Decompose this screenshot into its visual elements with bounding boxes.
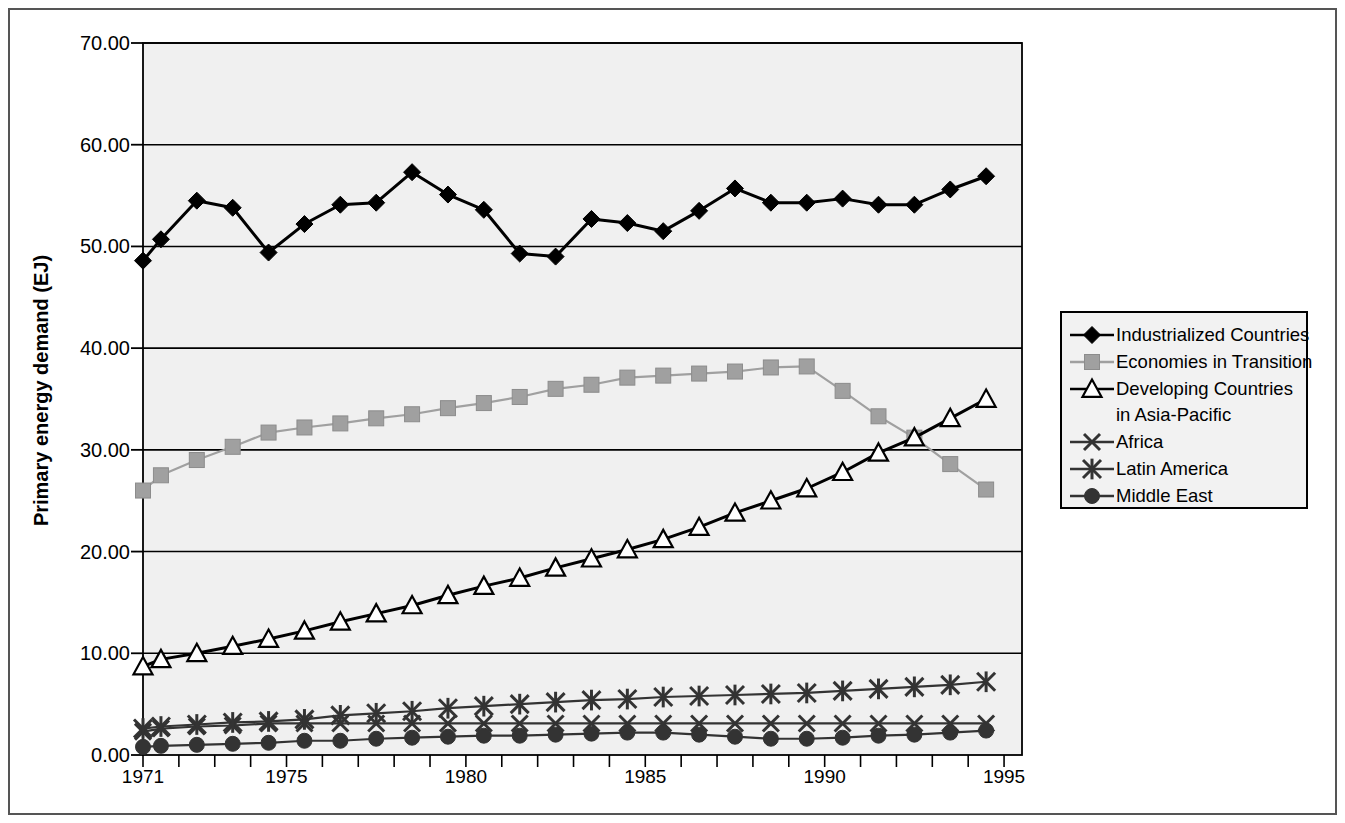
data-point-square — [225, 439, 240, 454]
diamond-marker-icon — [1068, 323, 1116, 347]
x-marker-icon — [1068, 430, 1116, 454]
data-point-circle — [979, 723, 994, 738]
data-point-circle — [763, 731, 778, 746]
data-point-circle — [261, 735, 276, 750]
data-point-circle — [907, 727, 922, 742]
data-point-circle — [835, 730, 850, 745]
data-point-circle — [1085, 488, 1100, 503]
star-marker-icon — [1068, 457, 1116, 481]
data-point-circle — [153, 738, 168, 753]
data-point-circle — [189, 737, 204, 752]
data-point-circle — [440, 729, 455, 744]
legend-label: Economies in Transition — [1116, 352, 1312, 371]
data-point-square — [548, 381, 563, 396]
data-point-circle — [620, 725, 635, 740]
data-point-circle — [476, 728, 491, 743]
legend-item-3[interactable]: Africa — [1062, 428, 1306, 455]
data-point-circle — [405, 730, 420, 745]
data-point-circle — [943, 725, 958, 740]
data-point-circle — [333, 733, 348, 748]
data-point-circle — [225, 736, 240, 751]
data-point-square — [692, 366, 707, 381]
legend-item-5[interactable]: Middle East — [1062, 482, 1306, 509]
data-point-square — [656, 368, 671, 383]
data-point-circle — [584, 726, 599, 741]
legend-item-2-line2: in Asia-Pacific — [1062, 402, 1306, 428]
legend-item-2[interactable]: Developing Countries — [1062, 375, 1306, 402]
plot-background — [143, 43, 1022, 755]
data-point-square — [153, 468, 168, 483]
legend-item-4[interactable]: Latin America — [1062, 455, 1306, 482]
legend-label: Industrialized Countries — [1116, 325, 1309, 344]
data-point-square — [979, 482, 994, 497]
data-point-square — [620, 370, 635, 385]
data-point-square — [136, 483, 151, 498]
data-point-square — [189, 453, 204, 468]
data-point-circle — [799, 731, 814, 746]
legend-label: Developing Countries — [1116, 379, 1293, 398]
data-point-square — [943, 457, 958, 472]
data-point-circle — [297, 733, 312, 748]
data-point-circle — [692, 727, 707, 742]
legend-label: Middle East — [1116, 486, 1213, 505]
data-point-circle — [369, 731, 384, 746]
data-point-square — [405, 407, 420, 422]
data-point-square — [1085, 354, 1100, 369]
data-point-circle — [512, 728, 527, 743]
chart-legend: Industrialized CountriesEconomies in Tra… — [1060, 311, 1308, 509]
legend-label: Latin America — [1116, 459, 1228, 478]
data-point-square — [763, 360, 778, 375]
data-point-circle — [871, 728, 886, 743]
data-point-square — [584, 377, 599, 392]
chart-figure: Primary energy demand (EJ) 0.0010.0020.0… — [0, 0, 1345, 823]
circle-marker-icon — [1068, 484, 1116, 508]
triangle-marker-icon — [1068, 377, 1116, 401]
data-point-square — [297, 420, 312, 435]
data-point-square — [871, 409, 886, 424]
data-point-square — [512, 389, 527, 404]
legend-item-1[interactable]: Economies in Transition — [1062, 348, 1306, 375]
data-point-square — [261, 425, 276, 440]
data-point-square — [369, 411, 384, 426]
data-point-square — [440, 401, 455, 416]
legend-item-0[interactable]: Industrialized Countries — [1062, 321, 1306, 348]
data-point-square — [476, 396, 491, 411]
data-point-circle — [727, 729, 742, 744]
data-point-diamond — [1084, 326, 1101, 343]
legend-label: Africa — [1116, 432, 1163, 451]
data-point-square — [727, 364, 742, 379]
data-point-circle — [548, 727, 563, 742]
data-point-square — [835, 383, 850, 398]
legend-label-line2: in Asia-Pacific — [1116, 405, 1231, 424]
square-marker-icon — [1068, 350, 1116, 374]
data-point-square — [799, 359, 814, 374]
data-point-circle — [656, 725, 671, 740]
data-point-square — [333, 416, 348, 431]
data-point-circle — [136, 739, 151, 754]
